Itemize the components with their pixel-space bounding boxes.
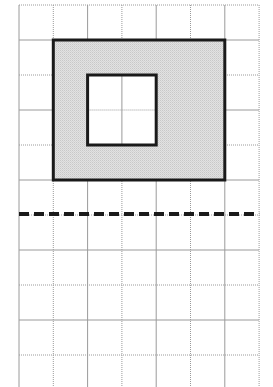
grid-diagram	[0, 0, 273, 387]
inner-square-gridlines	[88, 75, 157, 145]
